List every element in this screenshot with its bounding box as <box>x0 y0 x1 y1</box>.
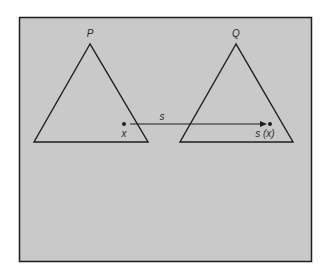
diagram-canvas: P Q x s s (x) <box>0 0 326 275</box>
point-sx <box>268 122 272 126</box>
label-sx: s (x) <box>255 128 274 139</box>
label-x: x <box>121 128 128 139</box>
point-x <box>122 122 126 126</box>
panel-frame <box>20 18 312 262</box>
label-p: P <box>87 28 94 39</box>
label-q: Q <box>232 28 240 39</box>
label-s: s <box>160 111 165 122</box>
